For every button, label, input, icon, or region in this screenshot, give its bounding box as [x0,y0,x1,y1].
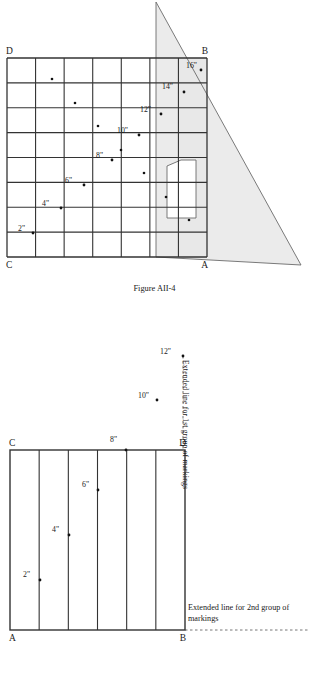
figure-bottom: CDAB2"4"6"8"10"12" Extended line for 1st… [0,330,309,675]
marking-dot [165,196,168,199]
extension-line-2nd-label: Extended line for 2nd group of markings [188,602,306,624]
drafting-triangle [156,2,301,265]
marking-dot [83,184,86,187]
marking-dot [200,69,203,72]
figure-caption: Figure AII-4 [0,284,309,293]
marking-label: 2" [23,570,30,579]
marking-dot [188,219,191,222]
marking-label: 10" [117,126,128,135]
marking-label: 2" [18,224,25,233]
corner-label-c: C [9,438,15,448]
marking-dot [60,207,63,210]
figure-top-drawing: DBCA2"4"6"8"10"12"14"16" [0,0,309,280]
marking-dot [138,134,141,137]
marking-dot [68,534,71,537]
marking-dot [160,113,163,116]
marking-label: 14" [162,82,173,91]
marking-dot [143,172,146,175]
marking-label: 4" [52,525,59,534]
marking-dot [74,102,77,105]
corner-label-a: A [9,633,16,643]
marking-label: 16" [186,61,197,70]
corner-label-d: D [6,46,13,56]
corner-label-a: A [201,260,208,270]
marking-dot [32,232,35,235]
marking-dot [51,78,54,81]
marking-label: 6" [65,176,72,185]
marking-dot [120,149,123,152]
corner-label-b: B [180,633,186,643]
corner-label-b: B [202,46,208,56]
extension-line-1st-label: Extended line for 1st group of markings [180,360,190,510]
marking-dot [39,579,42,582]
marking-dot [97,125,100,128]
marking-label: 12" [140,105,151,114]
corner-label-c: C [6,260,12,270]
marking-dot [156,399,159,402]
marking-label: 8" [110,435,117,444]
marking-dot [182,355,185,358]
marking-dot [183,91,186,94]
marking-label: 8" [96,151,103,160]
marking-label: 4" [42,199,49,208]
figure-all-4: DBCA2"4"6"8"10"12"14"16" Figure AII-4 [0,0,309,310]
marking-label: 10" [138,391,149,400]
marking-dot [97,489,100,492]
marking-label: 6" [82,480,89,489]
marking-dot [111,159,114,162]
triangle-cutout [167,160,196,218]
marking-dot [125,449,128,452]
marking-label: 12" [160,347,171,356]
